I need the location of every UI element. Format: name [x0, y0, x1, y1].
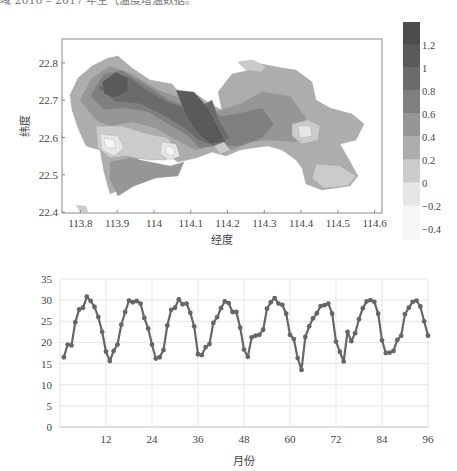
data-point [291, 337, 296, 342]
data-point [157, 355, 162, 360]
colorbar-segment [403, 114, 420, 137]
map-x-tick-label: 114.1 [179, 217, 203, 229]
data-point [357, 317, 362, 322]
map-x-tick-label: 114 [146, 217, 163, 229]
data-point [257, 332, 262, 337]
map-x-tick-label: 114.5 [326, 217, 351, 229]
data-point [406, 305, 411, 310]
y-tick-label: 20 [41, 336, 53, 348]
colorbar-segment [403, 91, 420, 114]
map-region [110, 158, 184, 196]
data-point [123, 310, 128, 315]
data-point [226, 301, 231, 306]
data-point [96, 315, 101, 320]
map-y-tick-label: 22.7 [39, 94, 59, 106]
data-point [165, 323, 170, 328]
y-tick-label: 0 [47, 421, 53, 433]
colorbar-tick-label: 0.8 [422, 86, 435, 97]
data-point [238, 325, 243, 330]
data-point [349, 339, 354, 344]
data-point [81, 305, 86, 310]
data-point [418, 304, 423, 309]
colorbar-tick-label: 0.6 [422, 109, 435, 120]
colorbar-tick-label: −0.2 [422, 201, 441, 212]
colorbar-tick-label: 0 [422, 178, 427, 189]
x-tick-label: 36 [193, 433, 205, 445]
data-point [280, 302, 285, 307]
y-ticks: 05101520253035 [41, 273, 53, 433]
data-point [272, 296, 277, 301]
data-point [395, 337, 400, 342]
data-point [326, 301, 331, 306]
data-point [284, 311, 289, 316]
map-region [298, 126, 312, 138]
colorbar-tick-label: 1.2 [422, 40, 435, 51]
data-point [299, 368, 304, 373]
data-point [100, 329, 105, 334]
data-point [142, 316, 147, 321]
data-point [173, 305, 178, 310]
y-tick-label: 30 [41, 294, 53, 306]
colorbar: 1.210.80.60.40.20−0.2−0.4 [403, 22, 442, 240]
data-point [314, 311, 319, 316]
data-point [119, 322, 124, 327]
data-point [403, 312, 408, 317]
map-regions [70, 56, 364, 212]
data-point [84, 294, 89, 299]
x-ticks: 1224364860728496 [101, 433, 435, 445]
data-point [138, 301, 143, 306]
colorbar-tick-label: 0.2 [422, 155, 435, 166]
colorbar-segment [403, 68, 420, 91]
map-region [238, 60, 266, 72]
map-y-tick-label: 22.6 [39, 132, 59, 144]
data-point [88, 299, 93, 304]
data-point [199, 353, 204, 358]
data-point [380, 338, 385, 343]
x-tick-label: 12 [101, 433, 112, 445]
data-point [376, 311, 381, 316]
data-point [192, 324, 197, 329]
map-y-tick-label: 22.4 [39, 206, 59, 218]
data-point [188, 310, 193, 315]
data-point [372, 299, 377, 304]
data-point [268, 300, 273, 305]
map-y-tick-label: 22.5 [39, 169, 59, 181]
data-point [265, 306, 270, 311]
map-x-tick-label: 114.2 [215, 217, 239, 229]
map-x-tick-label: 114.4 [289, 217, 314, 229]
data-point [207, 342, 212, 347]
data-point [345, 329, 350, 334]
data-point [353, 331, 358, 336]
colorbar-segment [403, 206, 420, 240]
data-point [115, 342, 120, 347]
data-point [295, 356, 300, 361]
map-x-tick-label: 114.6 [362, 217, 387, 229]
map-y-tick-label: 22.8 [39, 57, 59, 69]
data-point [161, 348, 166, 353]
colorbar-segment [403, 137, 420, 160]
colorbar-tick-label: 1 [422, 63, 427, 74]
data-point [61, 355, 66, 360]
data-point [337, 349, 342, 354]
data-point [360, 306, 365, 311]
data-point [104, 349, 109, 354]
data-point [261, 327, 266, 332]
data-point [245, 354, 250, 359]
data-point [234, 310, 239, 315]
y-tick-label: 15 [41, 358, 53, 370]
data-point [399, 333, 404, 338]
data-point [242, 347, 247, 352]
map-y-label: 纬度 [18, 115, 31, 137]
data-point [311, 316, 316, 321]
data-point [215, 315, 220, 320]
data-point [176, 297, 181, 302]
data-point [219, 306, 224, 311]
x-tick-label: 96 [423, 433, 435, 445]
data-point [288, 332, 293, 337]
data-point [307, 324, 312, 329]
map-y-ticks: 22.422.522.622.722.8 [39, 57, 65, 218]
data-point [391, 348, 396, 353]
island [76, 205, 88, 212]
data-point [73, 320, 78, 325]
colorbar-segment [403, 45, 420, 68]
